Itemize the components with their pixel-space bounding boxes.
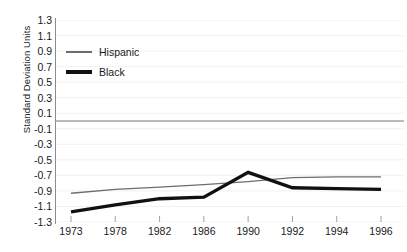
legend-label: Black — [99, 67, 125, 78]
y-axis-tick-label: -0.5 — [18, 155, 52, 166]
y-axis-tick-label: 0.9 — [18, 46, 52, 57]
series-line-black — [71, 172, 381, 212]
y-axis-tick-label: -0.3 — [18, 139, 52, 150]
legend-swatch-icon — [66, 70, 92, 73]
x-axis-tick-labels: 19731978198219861990199219941996 — [56, 226, 404, 246]
chart-legend: HispanicBlack — [66, 44, 139, 84]
y-axis-tick-label: -0.1 — [18, 124, 52, 135]
x-axis-tick-label: 1996 — [369, 226, 392, 237]
y-axis-tick-label: 0.3 — [18, 93, 52, 104]
legend-item-black: Black — [66, 64, 139, 80]
legend-label: Hispanic — [99, 47, 139, 58]
line-chart: Standard Deviation Units 1.31.10.90.70.5… — [0, 0, 407, 252]
y-axis-tick-label: 0.7 — [18, 62, 52, 73]
y-axis-tick-label: -0.9 — [18, 186, 52, 197]
y-axis-tick-label: 1.1 — [18, 31, 52, 42]
legend-swatch-icon — [66, 51, 92, 52]
y-axis-tick-labels: 1.31.10.90.70.50.30.1-0.1-0.3-0.5-0.7-0.… — [14, 0, 52, 252]
x-axis-tick-label: 1992 — [281, 226, 304, 237]
y-axis-tick-label: 0.1 — [18, 108, 52, 119]
y-axis-tick-label: -0.7 — [18, 170, 52, 181]
x-axis-tick-label: 1973 — [59, 226, 82, 237]
y-axis-tick-label: -1.1 — [18, 201, 52, 212]
x-axis-tick-label: 1978 — [104, 226, 127, 237]
y-axis-tick-label: -1.3 — [18, 217, 52, 228]
x-axis-tick-label: 1990 — [236, 226, 259, 237]
y-axis-tick-label: 0.5 — [18, 77, 52, 88]
x-axis-tick-label: 1994 — [325, 226, 348, 237]
y-axis-tick-label: 1.3 — [18, 15, 52, 26]
legend-item-hispanic: Hispanic — [66, 44, 139, 60]
x-axis-tick-label: 1982 — [148, 226, 171, 237]
x-axis-tick-label: 1986 — [192, 226, 215, 237]
